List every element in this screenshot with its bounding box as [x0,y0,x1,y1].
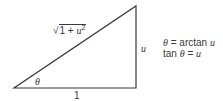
opposite-label: u [141,44,146,54]
adjacent-label: 1 [74,91,80,101]
hypotenuse-label: √1 + u2 [53,25,86,36]
angle-label: θ [35,77,40,87]
radicand: 1 + u2 [59,24,87,36]
right-triangle [14,6,136,88]
equation-arctan: θ = arctan u [163,38,215,48]
equation-tan: tan θ = u [163,49,201,59]
sqrt-symbol: √ [53,25,59,36]
